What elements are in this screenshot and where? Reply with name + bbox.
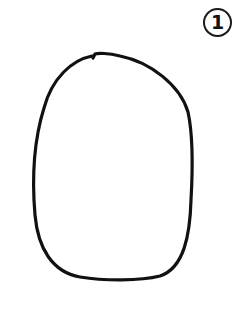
step-number: 1 bbox=[211, 13, 224, 32]
drawing-canvas bbox=[0, 0, 249, 310]
oval-outline bbox=[0, 0, 249, 310]
step-number-badge: 1 bbox=[203, 8, 232, 37]
